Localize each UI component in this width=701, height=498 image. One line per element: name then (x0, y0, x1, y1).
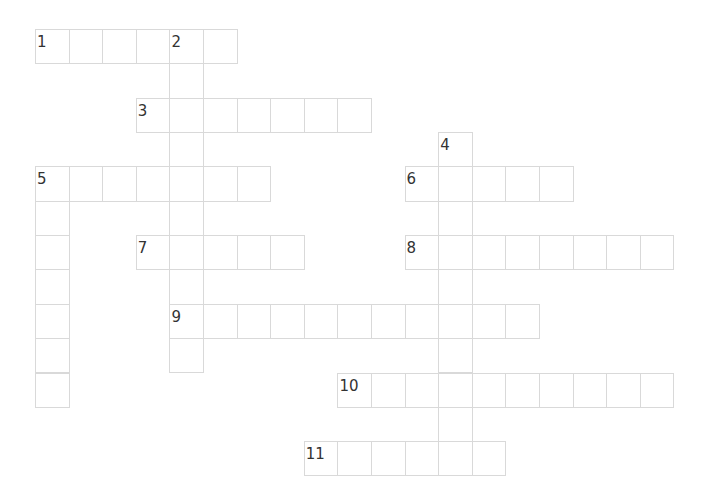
crossword-cell[interactable] (505, 304, 540, 339)
crossword-cell[interactable] (169, 132, 204, 167)
clue-number: 6 (407, 171, 417, 187)
clue-number: 1 (37, 34, 47, 50)
crossword-cell[interactable] (35, 269, 70, 304)
crossword-cell[interactable] (169, 235, 204, 270)
crossword-cell[interactable] (270, 98, 305, 133)
clue-number: 8 (407, 240, 417, 256)
crossword-cell[interactable] (337, 441, 372, 476)
crossword-cell[interactable] (237, 304, 272, 339)
crossword-cell[interactable] (438, 235, 473, 270)
crossword-cell[interactable] (169, 269, 204, 304)
crossword-cell[interactable] (371, 304, 406, 339)
crossword-cell[interactable] (438, 269, 473, 304)
crossword-cell[interactable] (337, 98, 372, 133)
crossword-cell[interactable] (270, 304, 305, 339)
crossword-cell[interactable] (237, 98, 272, 133)
crossword-cell[interactable] (606, 235, 641, 270)
crossword-cell[interactable] (472, 304, 507, 339)
crossword-cell[interactable]: 8 (405, 235, 440, 270)
crossword-cell[interactable] (69, 166, 104, 201)
crossword-cell[interactable] (606, 373, 641, 408)
clue-number: 11 (306, 446, 325, 462)
crossword-cell[interactable] (539, 166, 574, 201)
clue-number: 9 (171, 309, 181, 325)
crossword-cell[interactable] (237, 235, 272, 270)
crossword-cell[interactable] (505, 235, 540, 270)
crossword-cell[interactable] (405, 373, 440, 408)
crossword-cell[interactable] (203, 29, 238, 64)
crossword-cell[interactable] (573, 235, 608, 270)
clue-number: 4 (440, 137, 450, 153)
crossword-cell[interactable] (539, 373, 574, 408)
crossword-cell[interactable] (237, 166, 272, 201)
crossword-cell[interactable] (35, 338, 70, 373)
crossword-cell[interactable] (438, 201, 473, 236)
crossword-cell[interactable] (169, 166, 204, 201)
crossword-cell[interactable] (472, 166, 507, 201)
crossword-cell[interactable] (405, 441, 440, 476)
crossword-cell[interactable] (472, 373, 507, 408)
crossword-cell[interactable]: 9 (169, 304, 204, 339)
crossword-grid: 1293456781011 (0, 0, 701, 498)
crossword-cell[interactable] (573, 373, 608, 408)
crossword-cell[interactable] (169, 98, 204, 133)
crossword-cell[interactable] (405, 304, 440, 339)
crossword-cell[interactable] (438, 441, 473, 476)
crossword-cell[interactable]: 1 (35, 29, 70, 64)
crossword-cell[interactable] (438, 166, 473, 201)
crossword-cell[interactable] (169, 338, 204, 373)
crossword-cell[interactable]: 4 (438, 132, 473, 167)
crossword-cell[interactable] (102, 29, 137, 64)
crossword-cell[interactable] (472, 235, 507, 270)
crossword-cell[interactable] (136, 29, 171, 64)
crossword-cell[interactable] (337, 304, 372, 339)
crossword-cell[interactable] (169, 63, 204, 98)
crossword-cell[interactable] (640, 373, 675, 408)
crossword-cell[interactable] (35, 373, 70, 408)
crossword-cell[interactable] (539, 235, 574, 270)
crossword-cell[interactable] (505, 373, 540, 408)
crossword-cell[interactable] (505, 166, 540, 201)
crossword-cell[interactable] (35, 235, 70, 270)
crossword-cell[interactable]: 6 (405, 166, 440, 201)
crossword-cell[interactable] (438, 373, 473, 408)
crossword-cell[interactable] (438, 304, 473, 339)
crossword-cell[interactable]: 3 (136, 98, 171, 133)
crossword-cell[interactable] (472, 441, 507, 476)
clue-number: 5 (37, 171, 47, 187)
crossword-cell[interactable] (69, 29, 104, 64)
crossword-cell[interactable]: 5 (35, 166, 70, 201)
crossword-cell[interactable] (203, 304, 238, 339)
crossword-cell[interactable] (640, 235, 675, 270)
crossword-cell[interactable] (270, 235, 305, 270)
crossword-cell[interactable] (102, 166, 137, 201)
clue-number: 10 (339, 378, 358, 394)
crossword-cell[interactable]: 7 (136, 235, 171, 270)
crossword-cell[interactable]: 11 (304, 441, 339, 476)
clue-number: 2 (171, 34, 181, 50)
crossword-cell[interactable]: 10 (337, 373, 372, 408)
crossword-cell[interactable] (35, 201, 70, 236)
crossword-cell[interactable] (438, 407, 473, 442)
crossword-cell[interactable] (371, 441, 406, 476)
crossword-cell[interactable] (136, 166, 171, 201)
crossword-cell[interactable] (203, 98, 238, 133)
crossword-cell[interactable] (438, 338, 473, 373)
crossword-cell[interactable] (371, 373, 406, 408)
clue-number: 3 (138, 103, 148, 119)
crossword-cell[interactable]: 2 (169, 29, 204, 64)
crossword-cell[interactable] (35, 304, 70, 339)
crossword-cell[interactable] (203, 166, 238, 201)
crossword-cell[interactable] (169, 201, 204, 236)
crossword-cell[interactable] (304, 304, 339, 339)
clue-number: 7 (138, 240, 148, 256)
crossword-cell[interactable] (304, 98, 339, 133)
crossword-cell[interactable] (203, 235, 238, 270)
